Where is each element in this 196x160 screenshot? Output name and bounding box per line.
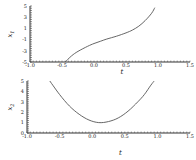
series-line — [50, 81, 154, 123]
x-tick-label: 1.0 — [154, 62, 162, 68]
x-tick-label: 0.5 — [121, 133, 129, 139]
y-tick-label: 4 — [21, 88, 24, 94]
x-tick-label: 0.0 — [88, 133, 96, 139]
plot-x1: 531-1-3-5-1.0-0.50.00.51.01.5tx1 — [6, 3, 194, 76]
x-tick-label: 1.0 — [153, 133, 161, 139]
y-tick-label: -1 — [22, 36, 27, 42]
y-axis-label: x2 — [6, 103, 15, 110]
y-axis-label: x1 — [6, 30, 15, 37]
series-line — [65, 8, 155, 62]
y-tick-label: 2 — [21, 109, 24, 115]
y-tick-label: -3 — [22, 48, 27, 54]
x-tick-label: -1.0 — [22, 133, 32, 139]
x-tick-label: -0.5 — [55, 133, 65, 139]
plot-x2: 543210-1.0-0.50.00.51.01.5tx2 — [6, 78, 194, 157]
x-axis-label: t — [121, 68, 124, 76]
y-tick-label: 1 — [24, 25, 27, 31]
y-tick-label: 5 — [24, 3, 27, 9]
x-tick-label: 1.5 — [186, 133, 194, 139]
x-tick-label: -0.5 — [57, 62, 67, 68]
figure: 531-1-3-5-1.0-0.50.00.51.01.5tx1 543210-… — [0, 0, 196, 160]
y-tick-label: 3 — [24, 14, 27, 20]
y-tick-label: 5 — [21, 78, 24, 84]
x-tick-label: 0.0 — [90, 62, 98, 68]
x-tick-label: -1.0 — [25, 62, 35, 68]
x-tick-label: 1.5 — [186, 62, 194, 68]
y-tick-label: 3 — [21, 99, 24, 105]
x-axis-label: t — [119, 149, 122, 157]
y-tick-label: 1 — [21, 119, 24, 125]
